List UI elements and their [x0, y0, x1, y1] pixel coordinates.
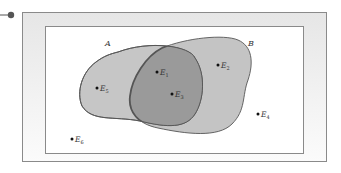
point-e6-dot-icon — [71, 138, 74, 141]
point-e3-dot-icon — [171, 93, 174, 96]
point-e1-dot-icon — [156, 71, 159, 74]
point-e5-dot-icon — [96, 87, 99, 90]
connector-dot-icon — [8, 12, 14, 18]
set-a-label: A — [104, 39, 111, 48]
venn-diagram: A B E1 E2 E3 E4 E5 E6 — [0, 0, 341, 173]
point-e2-dot-icon — [217, 64, 220, 67]
point-e4-dot-icon — [257, 113, 260, 116]
set-b-label: B — [247, 39, 254, 48]
